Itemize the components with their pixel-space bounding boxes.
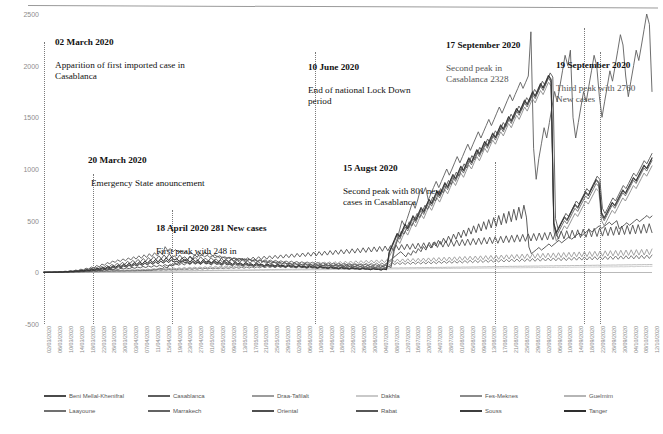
x-axis-tick: 02/03/2020 <box>46 326 52 353</box>
x-axis-tick: 22/09/2020 <box>600 326 606 353</box>
x-axis-tick: 08/10/2020 <box>643 326 649 353</box>
x-axis-tick: 11/04/2020 <box>155 326 161 353</box>
legend-item[interactable]: Beni Mellal-Khenifral <box>44 388 148 403</box>
y-axis-tick: 500 <box>27 217 39 224</box>
legend-label: Marrakech <box>173 408 201 414</box>
legend-label: Fes-Meknes <box>485 393 518 399</box>
x-axis-tick: 12/10/2020 <box>654 326 660 353</box>
annotation-title: 20 March 2020 <box>88 155 147 165</box>
annotation-19-september: 19 September 2020 Third peak with 2760 N… <box>556 49 635 105</box>
y-axis-tick: 2000 <box>23 62 39 69</box>
x-axis-tick: 14/09/2020 <box>578 326 584 353</box>
legend-label: Draa-Tafilalt <box>277 393 309 399</box>
annotation-body: First peak with 248 in <box>156 246 237 256</box>
legend-item[interactable]: Casablanca <box>148 388 252 403</box>
x-axis-tick: 05/05/2020 <box>220 326 226 353</box>
annotation-20-march: 20 March 2020 Emergency State anouncemen… <box>88 144 205 189</box>
y-axis-tick: 1000 <box>23 166 39 173</box>
legend-label: Tanger <box>589 408 607 414</box>
x-axis-tick: 22/06/2020 <box>350 326 356 353</box>
x-axis-tick: 06/06/2020 <box>307 326 313 353</box>
legend-swatch <box>460 395 482 397</box>
page-top-rule <box>28 5 658 8</box>
legend-row-2: LaayouneMarrakechOrientalRabatSoussTange… <box>44 403 656 418</box>
x-axis-tick: 18/03/2020 <box>90 326 96 353</box>
x-axis-tick: 26/09/2020 <box>611 326 617 353</box>
x-axis-tick: 07/04/2020 <box>144 326 150 353</box>
annotation-body: Apparition of first imported case in Cas… <box>55 60 185 81</box>
legend-item[interactable]: Marrakech <box>148 403 252 418</box>
legend: Beni Mellal-KhenifralCasablancaDraa-Tafi… <box>44 388 656 426</box>
y-axis-tick: 2500 <box>23 11 39 18</box>
x-axis-tick: 09/05/2020 <box>231 326 237 353</box>
annotation-18-april: 18 April 2020 281 New cases First peak w… <box>156 212 267 257</box>
x-axis-tick: 25/05/2020 <box>274 326 280 353</box>
x-axis-tick: 10/09/2020 <box>567 326 573 353</box>
legend-swatch <box>44 410 66 412</box>
x-axis-tick: 05/08/2020 <box>470 326 476 353</box>
legend-swatch <box>356 395 378 397</box>
x-axis-tick: 26/06/2020 <box>361 326 367 353</box>
legend-swatch <box>460 410 482 412</box>
x-axis-tick: 13/05/2020 <box>242 326 248 353</box>
legend-item[interactable]: Fes-Meknes <box>460 388 564 403</box>
x-axis-tick: 15/04/2020 <box>166 326 172 353</box>
annotation-body: Second peak in Casablanca 2328 <box>446 63 509 84</box>
x-axis-tick: 10/06/2020 <box>318 326 324 353</box>
legend-item[interactable]: Tanger <box>564 403 663 418</box>
legend-item[interactable]: Draa-Tafilalt <box>252 388 356 403</box>
annotation-body: Second peak with 801 new cases in Casabl… <box>343 186 442 207</box>
legend-label: Dakhla <box>381 393 400 399</box>
x-axis-tick: 21/08/2020 <box>513 326 519 353</box>
x-axis-tick: 01/05/2020 <box>209 326 215 353</box>
y-axis-tick: -500 <box>25 321 39 328</box>
x-axis-tick: 21/05/2020 <box>263 326 269 353</box>
y-axis-tick: 1500 <box>23 114 39 121</box>
x-axis-tick: 25/08/2020 <box>524 326 530 353</box>
x-axis-tick: 06/09/2020 <box>557 326 563 353</box>
x-axis-tick: 17/05/2020 <box>253 326 259 353</box>
x-axis-tick: 24/07/2020 <box>437 326 443 353</box>
x-axis-tick: 22/03/2020 <box>101 326 107 353</box>
legend-label: Casablanca <box>173 393 205 399</box>
annotation-body: Third peak with 2760 New cases <box>556 83 635 104</box>
legend-swatch <box>44 395 66 397</box>
x-axis-tick: 26/03/2020 <box>111 326 117 353</box>
legend-item[interactable]: Guelmim <box>564 388 663 403</box>
legend-label: Beni Mellal-Khenifral <box>69 393 124 399</box>
legend-item[interactable]: Dakhla <box>356 388 460 403</box>
x-axis-tick-group: 02/03/202006/03/202010/03/202014/03/2020… <box>44 326 652 382</box>
x-axis-tick: 08/07/2020 <box>394 326 400 353</box>
x-axis-tick: 10/03/2020 <box>68 326 74 353</box>
legend-label: Souss <box>485 408 502 414</box>
x-axis-tick: 23/04/2020 <box>187 326 193 353</box>
legend-swatch <box>564 395 586 397</box>
x-axis-tick: 27/04/2020 <box>198 326 204 353</box>
x-axis-tick: 04/07/2020 <box>383 326 389 353</box>
x-axis-tick: 13/08/2020 <box>491 326 497 353</box>
annotation-title: 19 September 2020 <box>556 60 630 70</box>
legend-item[interactable]: Laayoune <box>44 403 148 418</box>
x-axis-tick: 18/09/2020 <box>589 326 595 353</box>
annotation-title: 02 March 2020 <box>55 37 114 47</box>
annotation-15-august: 15 Augst 2020 Second peak with 801 new c… <box>343 152 442 208</box>
x-axis-tick: 12/07/2020 <box>405 326 411 353</box>
annotation-title: 15 Augst 2020 <box>343 163 398 173</box>
annotation-title: 10 June 2020 <box>308 62 359 72</box>
legend-item[interactable]: Oriental <box>252 403 356 418</box>
legend-swatch <box>252 410 274 412</box>
x-axis-tick: 06/03/2020 <box>57 326 63 353</box>
x-axis-tick: 20/07/2020 <box>426 326 432 353</box>
annotation-02-march: 02 March 2020 Apparition of first import… <box>55 26 185 82</box>
chart-page: 25002000150010005000-500 02 March 2020 A… <box>0 0 663 434</box>
x-axis-tick: 17/08/2020 <box>502 326 508 353</box>
annotation-body: End of national Lock Down period <box>308 85 411 106</box>
legend-swatch <box>148 395 170 397</box>
legend-item[interactable]: Rabat <box>356 403 460 418</box>
legend-row-1: Beni Mellal-KhenifralCasablancaDraa-Tafi… <box>44 388 656 403</box>
annotation-17-september: 17 September 2020 Second peak in Casabla… <box>446 29 520 85</box>
x-axis-tick: 02/06/2020 <box>296 326 302 353</box>
legend-item[interactable]: Souss <box>460 403 564 418</box>
legend-label: Guelmim <box>589 393 613 399</box>
x-axis-tick: 30/06/2020 <box>372 326 378 353</box>
